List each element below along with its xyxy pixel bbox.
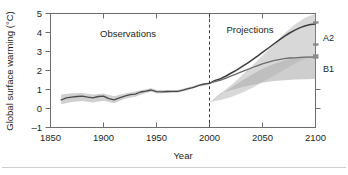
series-label-b1: B1 — [323, 64, 334, 74]
y-tick-labels: 5 4 3 2 1 0 –1 — [31, 8, 42, 133]
y-tick-1: 1 — [37, 84, 42, 95]
y-tick-4: 4 — [37, 27, 42, 38]
y-tick-5: 5 — [37, 8, 42, 19]
x-tick-labels: 1850 1900 1950 2000 2050 2100 — [40, 132, 326, 143]
x-tick-2050: 2050 — [252, 132, 273, 143]
band-observations — [61, 82, 209, 104]
x-tick-1950: 1950 — [146, 132, 167, 143]
x-tick-1900: 1900 — [93, 132, 114, 143]
x-tick-1850: 1850 — [40, 132, 61, 143]
figure-container: Global surface warming (°C) — [0, 0, 348, 175]
global-warming-chart: Global surface warming (°C) — [0, 0, 348, 175]
x-axis-ticks-top — [104, 14, 263, 19]
annotation-projections: Projections — [227, 24, 274, 35]
x-axis-ticks — [51, 123, 316, 128]
y-axis-title: Global surface warming (°C) — [4, 11, 15, 130]
y-tick-2: 2 — [37, 65, 42, 76]
series-label-a2: A2 — [323, 33, 334, 43]
x-tick-2000: 2000 — [199, 132, 220, 143]
annotation-observations: Observations — [100, 28, 156, 39]
x-tick-2100: 2100 — [305, 132, 326, 143]
y-axis-ticks-right — [316, 90, 321, 109]
y-tick-3: 3 — [37, 46, 42, 57]
x-axis-title: Year — [173, 150, 192, 161]
y-axis-ticks — [46, 14, 51, 128]
y-tick-0: 0 — [37, 103, 42, 114]
